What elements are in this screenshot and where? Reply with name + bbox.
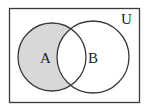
set-a-label: A: [40, 50, 51, 66]
universe-label: U: [121, 11, 132, 27]
set-b-label: B: [88, 50, 98, 66]
venn-diagram: A B U: [0, 0, 147, 108]
